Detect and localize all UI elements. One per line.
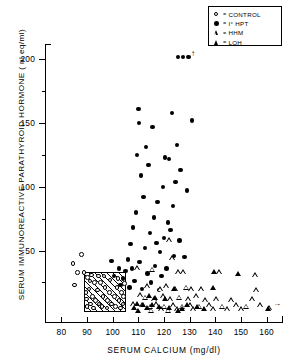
data-point-control [72, 283, 77, 288]
data-point-i-hpt [176, 55, 180, 59]
y-tick [39, 187, 46, 188]
data-point-i-hpt [171, 204, 175, 208]
data-point-hhm [166, 237, 172, 242]
data-point-loh [175, 308, 181, 313]
data-point-loh [194, 304, 200, 309]
data-point-i-hpt [145, 271, 149, 275]
data-point-i-hpt [136, 107, 140, 111]
data-point-i-hpt [161, 185, 165, 189]
open-circle-icon [214, 12, 223, 16]
data-point-i-hpt [109, 259, 113, 263]
data-point-i-hpt [128, 242, 132, 246]
data-point-hhm [157, 286, 163, 291]
data-point-i-hpt [118, 283, 122, 287]
filled-circle-icon [214, 21, 223, 26]
data-point-i-hpt [186, 55, 190, 59]
data-point-i-hpt [150, 125, 154, 129]
data-point-i-hpt [126, 257, 130, 261]
data-point-i-hpt [158, 250, 162, 254]
data-point-i-hpt [190, 118, 194, 122]
data-point-control [98, 280, 103, 285]
data-point-control [112, 294, 117, 299]
data-point-control [92, 280, 97, 285]
legend-label-hhm: HHM [228, 29, 243, 36]
data-point-i-hpt [137, 121, 141, 125]
data-point-i-hpt [168, 228, 172, 232]
plot-area: ↑→ [46, 44, 282, 322]
data-point-loh [135, 308, 141, 313]
x-axis-end-cap [282, 316, 283, 323]
data-point-control [107, 290, 112, 295]
data-point-hhm [253, 287, 259, 292]
data-point-i-hpt [155, 200, 159, 204]
data-point-i-hpt [127, 285, 131, 289]
data-point-i-hpt [132, 279, 136, 283]
legend-equals: = [223, 20, 226, 26]
data-point-control [84, 297, 89, 302]
data-point-control [89, 273, 94, 278]
data-point-loh [201, 306, 207, 311]
data-point-control [95, 288, 100, 293]
data-point-i-hpt [141, 195, 145, 199]
data-point-loh [149, 302, 155, 307]
data-point-control [96, 274, 101, 279]
legend-item-hpt: = I° HPT [214, 19, 281, 27]
data-point-i-hpt [131, 225, 135, 229]
data-point-i-hpt [137, 260, 141, 264]
data-point-loh [171, 286, 177, 291]
data-point-loh [162, 296, 168, 301]
data-point-i-hpt [182, 255, 186, 259]
data-point-loh [152, 295, 158, 300]
data-point-hhm [224, 306, 230, 311]
data-point-loh [235, 271, 241, 276]
data-point-i-hpt [181, 55, 185, 59]
chart-figure: = CONTROL = I° HPT = HHM = LOH 501001502… [0, 0, 290, 363]
data-point-i-hpt [117, 266, 121, 270]
offscale-right-arrow: → [273, 301, 281, 307]
data-point-hhm [213, 296, 219, 301]
y-minor-tick [42, 91, 46, 92]
data-point-i-hpt [154, 241, 158, 245]
data-point-control [103, 285, 108, 290]
data-point-i-hpt [159, 274, 163, 278]
data-point-hhm [169, 255, 175, 260]
y-axis-title: SERUM IMMUNOREACTIVE PARATHYROID HORMONE… [17, 27, 26, 303]
x-axis-title: SERUM CALCIUM (mg/dl) [45, 345, 283, 355]
data-point-hhm [180, 269, 186, 274]
legend-equals: = [223, 30, 226, 36]
data-point-hhm [210, 306, 216, 311]
open-triangle-icon [214, 30, 223, 35]
data-point-loh [184, 302, 190, 307]
data-point-hhm [176, 295, 182, 300]
data-point-hhm [193, 293, 199, 298]
data-point-hhm [185, 296, 191, 301]
data-point-i-hpt [143, 246, 147, 250]
data-point-i-hpt [123, 269, 127, 273]
data-point-i-hpt [170, 111, 174, 115]
legend-label-control: CONTROL [228, 11, 260, 18]
y-minor-tick [42, 155, 46, 156]
data-point-hhm [243, 304, 249, 309]
data-point-hhm [257, 302, 263, 307]
legend-equals: = [223, 11, 226, 17]
data-point-loh [211, 269, 217, 274]
data-point-hhm [163, 283, 169, 288]
legend-label-hpt: I° HPT [228, 20, 248, 27]
data-point-i-hpt [134, 210, 138, 214]
data-point-control [100, 304, 105, 309]
data-point-hhm [198, 286, 204, 291]
legend-item-control: = CONTROL [214, 10, 281, 18]
data-point-hhm [249, 296, 255, 301]
data-point-control [113, 304, 118, 309]
data-point-hhm [134, 265, 140, 270]
data-point-i-hpt [185, 188, 189, 192]
y-tick [39, 59, 46, 60]
data-point-loh [210, 285, 216, 290]
data-point-i-hpt [166, 220, 170, 224]
data-point-control [82, 270, 87, 275]
data-point-loh [146, 293, 152, 298]
chart-legend: = CONTROL = I° HPT = HHM = LOH [208, 6, 282, 46]
data-point-hhm [149, 267, 155, 272]
data-point-control [121, 294, 126, 299]
data-point-control [75, 270, 80, 275]
